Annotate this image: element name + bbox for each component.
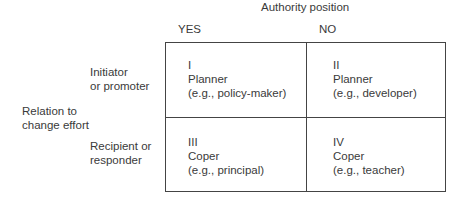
row-header-recipient-line2: responder — [90, 153, 142, 167]
quadrant-3: III Coper (e.g., principal) — [188, 135, 264, 177]
quadrant-2-role: Planner — [333, 72, 417, 86]
quadrant-3-example: (e.g., principal) — [188, 163, 264, 177]
quadrant-grid: I Planner (e.g., policy-maker) II Planne… — [165, 42, 446, 192]
quadrant-2-example: (e.g., developer) — [333, 86, 417, 100]
quadrant-4-numeral: IV — [333, 135, 405, 149]
quadrant-4-example: (e.g., teacher) — [333, 163, 405, 177]
column-header-no: NO — [319, 22, 336, 36]
column-header-yes: YES — [178, 22, 201, 36]
row-axis-title-line1: Relation to — [22, 104, 77, 118]
row-header-initiator-line1: Initiator — [90, 65, 128, 79]
quadrant-2: II Planner (e.g., developer) — [333, 58, 417, 100]
quadrant-1: I Planner (e.g., policy-maker) — [188, 58, 286, 100]
row-axis-title-line2: change effort — [22, 118, 89, 132]
quadrant-2-numeral: II — [333, 58, 417, 72]
row-header-recipient-line1: Recipient or — [90, 139, 151, 153]
quadrant-3-role: Coper — [188, 149, 264, 163]
row-header-initiator-line2: or promoter — [90, 79, 149, 93]
grid-horizontal-divider — [166, 117, 445, 118]
quadrant-4: IV Coper (e.g., teacher) — [333, 135, 405, 177]
column-axis-title: Authority position — [261, 0, 349, 14]
quadrant-1-example: (e.g., policy-maker) — [188, 86, 286, 100]
quadrant-3-numeral: III — [188, 135, 264, 149]
quadrant-1-role: Planner — [188, 72, 286, 86]
quadrant-4-role: Coper — [333, 149, 405, 163]
quadrant-1-numeral: I — [188, 58, 286, 72]
